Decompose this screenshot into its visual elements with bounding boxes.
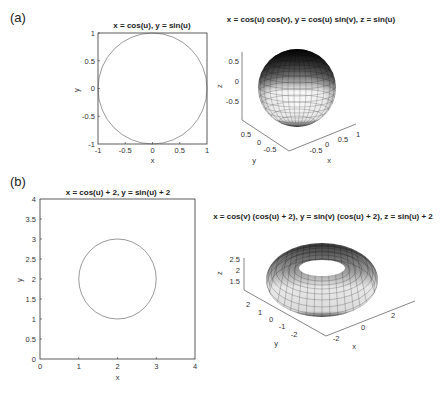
ztick-label: -0.5 (226, 97, 239, 106)
xtick-label: -0.5 (310, 146, 323, 155)
z-axis-label: z (215, 271, 224, 275)
ytick-label: 2 (246, 300, 250, 309)
ytick-label: 3 (32, 235, 36, 244)
xtick-label: 0 (361, 323, 365, 332)
xtick-label: -2 (333, 334, 340, 343)
y-axis-label: y (274, 339, 278, 348)
ytick-label: 0 (91, 84, 95, 93)
x-axis-label: x (327, 156, 331, 165)
xtick-label: 2 (391, 311, 395, 320)
ztick-label: 0.5 (229, 57, 239, 66)
x-axis-label: x (151, 156, 155, 165)
xtick-label: 1 (77, 362, 81, 371)
ytick-label: 4 (32, 195, 36, 204)
plot-shifted-circle: 4 3.5 3 2.5 2 1.5 1 0.5 0 0 1 2 3 4 x y (15, 195, 197, 382)
ytick-label: 0.5 (85, 57, 95, 66)
ytick-label: 1 (32, 315, 36, 324)
ytick-label: -2 (291, 330, 298, 339)
y-axis-label: y (72, 88, 81, 92)
xtick-label: 0.5 (338, 135, 348, 144)
xtick-label: 4 (193, 362, 197, 371)
ytick-label: 3.5 (26, 215, 36, 224)
ytick-label: -0.5 (264, 145, 277, 154)
plot-circle: 1 0.5 0 -0.5 -1 -1 -0.5 0 0.5 1 x y (72, 29, 209, 165)
ytick-label: 0 (257, 138, 261, 147)
ztick-label: 1.5 (230, 277, 240, 286)
ztick-label: 0 (235, 77, 239, 86)
z-axis-label: z (215, 84, 224, 88)
ytick-label: 1 (91, 29, 95, 38)
figure-canvas: 1 0.5 0 -0.5 -1 -1 -0.5 0 0.5 1 x y (0, 0, 448, 402)
xtick-label: 0.5 (175, 146, 185, 155)
ytick-label: 0 (269, 315, 273, 324)
ytick-label: 2 (32, 275, 36, 284)
xtick-label: 1 (205, 146, 209, 155)
xtick-label: 2 (115, 362, 119, 371)
plot-sphere: 0.5 0 -0.5 z 0.5 0 -0.5 y -0.5 0 0.5 1 x (215, 49, 360, 165)
ztick-label: 2 (236, 266, 240, 275)
xtick-label: -1 (95, 146, 102, 155)
ytick-label: -1 (279, 322, 286, 331)
xtick-label: 0 (325, 140, 329, 149)
ytick-label: 0.5 (241, 130, 251, 139)
x-axis-label: x (352, 342, 356, 351)
x-axis-label: x (116, 373, 120, 382)
ytick-label: -0.5 (82, 112, 95, 121)
xtick-label: 0 (38, 362, 42, 371)
ytick-label: 0.5 (26, 335, 36, 344)
ytick-label: 1.5 (26, 295, 36, 304)
xtick-label: -0.5 (119, 146, 132, 155)
ytick-label: 0 (32, 355, 36, 364)
plot-torus: 2.5 2 1.5 z 2 1 0 -1 -2 y -2 0 2 x (215, 243, 415, 351)
xtick-label: 1 (356, 130, 360, 139)
y-axis-label: y (15, 278, 24, 282)
ztick-label: 2.5 (230, 255, 240, 264)
xtick-label: 0 (150, 146, 154, 155)
ytick-label: 1 (258, 308, 262, 317)
ytick-label: 2.5 (26, 255, 36, 264)
xtick-label: 3 (154, 362, 158, 371)
y-axis-label: y (252, 156, 256, 165)
